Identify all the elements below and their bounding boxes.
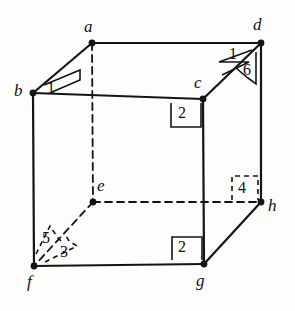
vertex-label-f: f [27, 273, 32, 290]
vertex-label-e: e [97, 177, 105, 194]
vertex-dot-f [31, 263, 38, 270]
cube-edge-c-g [203, 99, 204, 264]
angle-label-angle-1-at-b: 1 [47, 80, 55, 96]
angle-label-angle-5-at-f: 5 [42, 230, 50, 246]
angle-label-angle-4-at-h: 4 [238, 180, 246, 196]
cube-angle-diagram: abcdefgh 11624253 [0, 0, 295, 311]
angle-label-angle-6-at-d: 6 [243, 62, 251, 78]
vertex-label-h: h [268, 197, 277, 214]
vertex-label-d: d [253, 16, 262, 33]
cube-edge-g-h [204, 202, 261, 264]
cube-edge-g-f [34, 264, 204, 266]
vertex-label-a: a [84, 18, 93, 35]
vertex-label-b: b [14, 82, 23, 99]
vertex-dot-g [201, 261, 208, 268]
vertex-dot-a [89, 40, 96, 47]
angle-marker-angle-2-at-g [172, 237, 202, 260]
solid-edges-group [33, 43, 261, 266]
vertex-label-c: c [194, 74, 202, 91]
vertex-dot-d [258, 40, 265, 47]
vertex-dot-e [90, 199, 97, 206]
cube-edge-b-a [33, 43, 92, 93]
angle-label-angle-2-at-c: 2 [178, 105, 186, 121]
vertex-dot-c [200, 96, 207, 103]
angle-label-angle-1-at-d: 1 [229, 46, 237, 62]
cube-svg-canvas [0, 0, 295, 311]
vertex-dot-h [258, 199, 265, 206]
angle-markers-group [36, 50, 258, 262]
angle-label-angle-3-at-f: 3 [60, 244, 68, 260]
cube-edge-f-b [33, 93, 34, 266]
vertex-label-g: g [196, 272, 205, 289]
vertex-dot-b [30, 90, 37, 97]
angle-label-angle-2-at-g: 2 [178, 239, 186, 255]
cube-edge-b-c [33, 93, 203, 99]
cube-edge-a-e [92, 43, 93, 202]
angle-marker-angle-2-at-c [171, 103, 201, 127]
